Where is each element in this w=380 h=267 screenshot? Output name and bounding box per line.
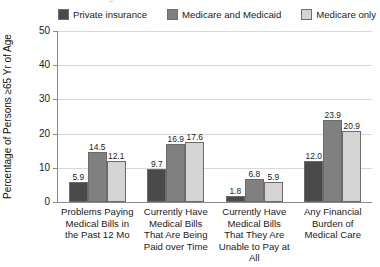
bar-value-label: 20.9 <box>344 122 360 131</box>
legend-item-label: Medicare and Medicaid <box>182 9 281 20</box>
category-label-line: Medical Bills in <box>58 218 137 230</box>
y-axis-tick-label: 10 <box>39 163 50 173</box>
legend-swatch-icon <box>167 9 178 20</box>
y-axis-tick-label: 0 <box>44 197 50 207</box>
x-axis-line <box>57 202 372 203</box>
x-axis-category-label: Currently HaveMedical BillsThat Are Bein… <box>137 206 216 252</box>
bar-value-label: 14.5 <box>89 143 105 152</box>
category-label-line: Problems Paying <box>58 206 137 218</box>
bar-group: 9.716.917.6 <box>137 31 216 202</box>
bar-group: 12.023.920.9 <box>294 31 373 202</box>
bar[interactable]: 20.9 <box>342 131 361 202</box>
legend-swatch-icon <box>301 9 312 20</box>
category-label-line: Paid over Time <box>137 241 216 253</box>
x-axis-category-label: Any FinancialBurden ofMedical Care <box>294 206 373 241</box>
category-label-line: That Are Being <box>137 229 216 241</box>
x-axis-category-labels: Problems PayingMedical Bills inthe Past … <box>58 206 372 264</box>
y-axis-tick-label: 40 <box>39 60 50 70</box>
legend-item-label: Medicare only <box>316 9 376 20</box>
bar-value-label: 6.8 <box>248 170 260 179</box>
bar[interactable]: 6.8 <box>245 179 264 202</box>
category-label-line: Medical Care <box>294 229 373 241</box>
bar-value-label: 5.9 <box>267 173 279 182</box>
bar[interactable]: 23.9 <box>323 120 342 202</box>
legend-swatch-icon <box>58 9 69 20</box>
category-label-line: Unable to Pay at All <box>215 241 294 264</box>
cut-off-caption-text: Figure continued from above <box>100 0 220 2</box>
category-label-line: the Past 12 Mo <box>58 229 137 241</box>
category-label-line: Currently Have <box>137 206 216 218</box>
y-axis-title: Percentage of Persons ≥65 Yr of Age <box>0 31 14 202</box>
category-label-line: Medical Bills <box>215 218 294 230</box>
bar-value-label: 12.1 <box>108 152 124 161</box>
bar-value-label: 1.8 <box>229 187 241 196</box>
bar-value-label: 23.9 <box>325 111 341 120</box>
category-label-line: That They Are <box>215 229 294 241</box>
x-axis-category-label: Problems PayingMedical Bills inthe Past … <box>58 206 137 241</box>
x-axis-category-label: Currently HaveMedical BillsThat They Are… <box>215 206 294 264</box>
bar[interactable]: 12.1 <box>107 161 126 202</box>
bar-group: 1.86.85.9 <box>215 31 294 202</box>
legend-item[interactable]: Medicare only <box>301 9 376 20</box>
category-label-line: Medical Bills <box>137 218 216 230</box>
bar-value-label: 5.9 <box>72 173 84 182</box>
bar-chart-figure: Figure continued from above Private insu… <box>0 0 380 267</box>
category-label-line: Burden of <box>294 218 373 230</box>
bar[interactable]: 5.9 <box>69 182 88 202</box>
bar[interactable]: 14.5 <box>88 152 107 202</box>
bar-value-label: 9.7 <box>151 160 163 169</box>
bar[interactable]: 9.7 <box>147 169 166 202</box>
y-axis-tick-label: 50 <box>39 26 50 36</box>
bar[interactable]: 12.0 <box>304 161 323 202</box>
chart-legend: Private insuranceMedicare and MedicaidMe… <box>58 6 376 22</box>
category-label-line: Currently Have <box>215 206 294 218</box>
bar-group: 5.914.512.1 <box>58 31 137 202</box>
y-axis-tick-label: 20 <box>39 129 50 139</box>
y-axis-tick <box>53 202 58 203</box>
bar[interactable]: 5.9 <box>264 182 283 202</box>
bar[interactable]: 17.6 <box>185 142 204 202</box>
bar-value-label: 12.0 <box>306 152 322 161</box>
bar-value-label: 16.9 <box>168 135 184 144</box>
bar[interactable]: 1.8 <box>226 196 245 202</box>
plot-area: 010203040505.914.512.19.716.917.61.86.85… <box>58 31 372 202</box>
legend-item-label: Private insurance <box>73 9 147 20</box>
bar[interactable]: 16.9 <box>166 144 185 202</box>
legend-item[interactable]: Medicare and Medicaid <box>167 9 281 20</box>
legend-item[interactable]: Private insurance <box>58 9 147 20</box>
y-axis-tick-label: 30 <box>39 94 50 104</box>
category-label-line: Any Financial <box>294 206 373 218</box>
bar-value-label: 17.6 <box>187 133 203 142</box>
